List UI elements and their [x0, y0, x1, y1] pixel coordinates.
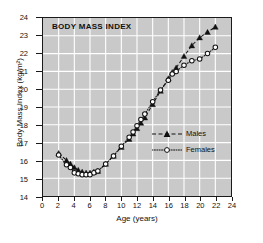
y-axis-title: Body Mass Index (kg/m²) [15, 8, 24, 198]
x-tick-label: 0 [40, 201, 44, 210]
legend-circle-marker-icon [152, 145, 182, 155]
x-tick-mark [137, 197, 138, 201]
y-tick-mark [36, 143, 42, 144]
x-tick-label: 20 [196, 201, 204, 210]
x-tick-mark [121, 197, 122, 201]
y-tick-mark [36, 35, 42, 36]
x-tick-label: 16 [164, 201, 172, 210]
y-tick-mark [36, 125, 42, 126]
y-tick-mark [36, 161, 42, 162]
series-layer [43, 18, 231, 196]
x-tick-label: 12 [133, 201, 141, 210]
x-tick-mark [105, 197, 106, 201]
x-tick-mark [185, 197, 186, 201]
x-tick-label: 18 [180, 201, 188, 210]
bmi-chart-figure: BODY MASS INDEX 1415161718192021222324 0… [0, 0, 263, 243]
x-tick-mark [169, 197, 170, 201]
x-tick-label: 4 [72, 201, 76, 210]
y-tick-mark [36, 17, 42, 18]
y-tick-mark [36, 71, 42, 72]
x-tick-label: 14 [149, 201, 157, 210]
x-tick-label: 8 [103, 201, 107, 210]
x-tick-label: 24 [228, 201, 236, 210]
x-tick-label: 10 [117, 201, 125, 210]
y-tick-mark [36, 107, 42, 108]
chart-title: BODY MASS INDEX [52, 22, 131, 31]
plot-area [42, 17, 232, 197]
x-tick-mark [42, 197, 43, 201]
y-tick-mark [36, 89, 42, 90]
legend-item-males: Males [152, 126, 215, 142]
x-tick-label: 22 [212, 201, 220, 210]
x-tick-label: 6 [87, 201, 91, 210]
x-tick-mark [200, 197, 201, 201]
legend-label: Males [186, 129, 206, 139]
y-tick-mark [36, 179, 42, 180]
x-tick-mark [153, 197, 154, 201]
chart-legend: MalesFemales [152, 126, 215, 158]
legend-triangle-marker-icon [152, 129, 182, 139]
x-tick-label: 2 [56, 201, 60, 210]
x-tick-mark [74, 197, 75, 201]
x-axis-title: Age (years) [42, 214, 232, 223]
x-tick-mark [58, 197, 59, 201]
legend-item-females: Females [152, 142, 215, 158]
x-tick-mark [90, 197, 91, 201]
legend-label: Females [186, 145, 215, 155]
x-tick-mark [232, 197, 233, 201]
x-tick-mark [216, 197, 217, 201]
y-tick-mark [36, 53, 42, 54]
